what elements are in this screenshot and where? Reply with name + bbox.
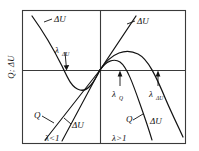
arrow-left-lambda-delta-u-head — [64, 65, 70, 71]
curve-left-delta-u-line — [62, 70, 100, 141]
leader-left-q — [42, 116, 54, 123]
label-right-lambda-delta-u-subscript: ΔU — [155, 95, 164, 101]
label-right-bottom-delta-u: ΔU — [149, 116, 162, 126]
label-right-lambda-delta-u: λ — [148, 89, 153, 99]
label-left-bottom-delta-u: ΔU — [71, 120, 84, 130]
arrow-right-lambda-delta-u-head — [156, 71, 161, 77]
leader-right-q — [133, 114, 143, 120]
label-right-top-delta-u: ΔU — [136, 16, 149, 26]
curve-right-delta-u-line — [100, 16, 136, 70]
label-left-q: Q — [34, 110, 41, 120]
label-right-lambda-q-subscript: Q — [119, 95, 123, 101]
leader-left-top-delta-u — [44, 19, 52, 22]
label-left-top-delta-u: ΔU — [53, 14, 66, 24]
label-right-q: Q — [126, 114, 133, 124]
arrow-right-lambda-q-head — [118, 71, 123, 77]
plot-svg: ΔU λ ΔU Q ΔU λ<1 ΔU λ Q λ ΔU — [0, 0, 199, 151]
label-right-lambda-q: λ — [111, 89, 116, 99]
figure-container: Q; ΔU ΔU λ ΔU Q ΔU λ<1 — [0, 0, 199, 151]
y-axis-label: Q; ΔU — [6, 40, 16, 94]
label-right-condition: λ>1 — [111, 133, 126, 143]
curve-right-q-hump — [100, 60, 152, 140]
label-left-lambda-subscript: ΔU — [61, 51, 70, 57]
leader-left-bottom-delta-u — [64, 118, 71, 124]
label-left-lambda: λ — [54, 45, 59, 55]
label-left-condition: λ<1 — [44, 133, 59, 143]
